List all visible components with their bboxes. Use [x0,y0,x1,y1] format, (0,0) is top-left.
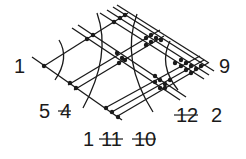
intersection-dot [91,33,95,37]
intersection-dot [159,38,163,42]
intersection-dot [173,61,177,65]
intersection-dot [149,33,153,37]
intersection-dot [149,40,153,44]
intersection-dot [184,68,188,72]
intersection-dot [74,86,78,90]
label-5: 5 [39,100,50,122]
intersection-dot [144,36,148,40]
intersection-dot [112,20,116,24]
intersection-dot [189,71,193,75]
intersection-dot [153,80,157,84]
intersection-dot [85,37,89,41]
intersection-dot [179,58,183,62]
line-down-right [117,5,209,63]
intersection-dot [199,64,203,68]
intersection-dot [68,81,72,85]
intersection-dot [117,61,121,65]
line-down-right [113,7,214,71]
label-2: 2 [211,104,222,126]
diagram-canvas: 195412211110 [0,0,246,159]
arc-curve [83,13,102,108]
intersection-dot [153,74,157,78]
intersection-dot [116,115,120,119]
intersection-dot [123,13,127,17]
intersection-dot [115,51,119,55]
intersection-dot [158,86,162,90]
intersection-dot [163,82,167,86]
intersection-dot [154,36,158,40]
intersection-dot [118,16,122,20]
arc-curve [166,41,179,90]
label-1-bottom: 1 [83,128,94,150]
arc-group [55,13,178,112]
intersection-dot [158,78,162,82]
intersection-dot [42,64,46,68]
intersection-dot [144,43,148,47]
label-9: 9 [219,55,230,77]
line-intersection-diagram: 195412211110 [0,0,246,159]
intersection-dot [123,58,127,62]
intersection-dot [110,110,114,114]
intersection-dot [163,86,167,90]
intersection-dot [104,106,108,110]
label-1-left: 1 [14,55,25,77]
intersection-dot [189,64,193,68]
intersection-dot [179,64,183,68]
intersection-dot [184,61,188,65]
intersection-dot [168,78,172,82]
intersection-dot [194,67,198,71]
